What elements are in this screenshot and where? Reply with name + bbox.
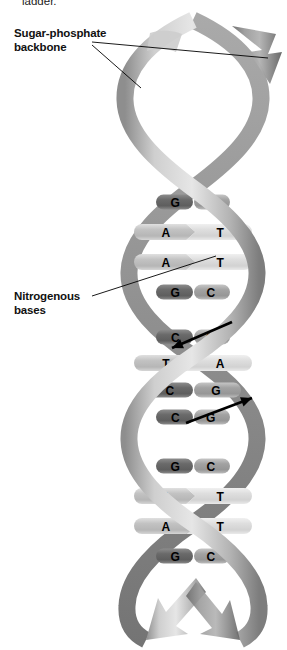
label-sugar-phosphate-backbone: Sugar-phosphate backbone [14,27,106,54]
base-letter-left: G [171,550,180,564]
dna-backbone-strand-front [125,20,259,640]
base-letter-right: C [206,286,215,300]
base-letter-left: G [171,460,180,474]
dna-double-helix-figure: GCATATGCCGTACGCGGCATATGC ladder. Sugar-p… [0,0,287,650]
base-letter-left: A [162,256,171,270]
base-letter-right: T [216,226,224,240]
base-letter-right: T [216,256,224,270]
base-letter-right: C [206,460,215,474]
base-letter-left: C [171,411,180,425]
base-letter-left: G [171,196,180,210]
base-letter-right: A [216,357,225,371]
helix-ribbon-bottom-arrows [146,578,240,640]
base-pair-rung: AT [134,254,252,270]
dna-backbone-strand-back [127,20,261,640]
label-nitrogenous-bases: Nitrogenous bases [14,290,80,317]
base-letter-right: G [211,384,220,398]
base-letter-right: C [206,550,215,564]
base-letter-right: T [216,490,224,504]
base-pair-rung: GC [156,459,230,474]
caption-fragment: ladder. [22,0,57,9]
base-letter-left: G [171,286,180,300]
base-pair-rung: GC [156,285,230,300]
base-letter-left: A [162,520,171,534]
dna-helix-illustration: GCATATGCCGTACGCGGCATATGC [0,0,287,650]
base-letter-left: A [162,226,171,240]
